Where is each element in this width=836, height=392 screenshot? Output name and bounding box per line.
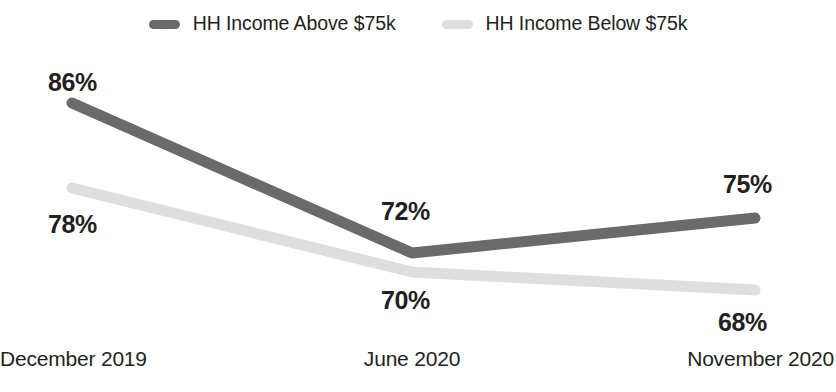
x-axis-labels: December 2019 June 2020 November 2020 bbox=[0, 346, 836, 378]
x-axis-label-december-2019: December 2019 bbox=[0, 346, 147, 372]
series-line-above bbox=[72, 103, 755, 253]
data-label-above-dec2019: 86% bbox=[48, 70, 97, 95]
data-label-below-jun2020: 70% bbox=[381, 288, 430, 313]
data-label-below-dec2019: 78% bbox=[48, 212, 97, 237]
data-label-above-nov2020: 75% bbox=[723, 172, 772, 197]
data-label-below-nov2020: 68% bbox=[718, 310, 767, 335]
data-label-above-jun2020: 72% bbox=[381, 199, 430, 224]
x-axis-label-november-2020: November 2020 bbox=[687, 346, 834, 372]
line-chart: HH Income Above $75k HH Income Below $75… bbox=[0, 0, 836, 392]
chart-plot-area bbox=[0, 0, 836, 392]
x-axis-label-june-2020: June 2020 bbox=[364, 346, 460, 372]
